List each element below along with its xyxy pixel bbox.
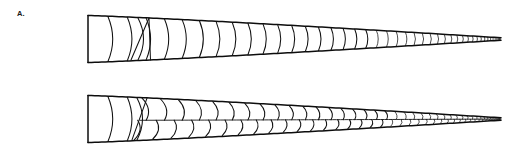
- panel-a-drawing: [0, 0, 518, 80]
- figure-root: A. B.: [0, 0, 518, 159]
- panel-b-drawing: [0, 80, 518, 159]
- panel-b: B.: [0, 80, 518, 159]
- panel-a: A.: [0, 0, 518, 80]
